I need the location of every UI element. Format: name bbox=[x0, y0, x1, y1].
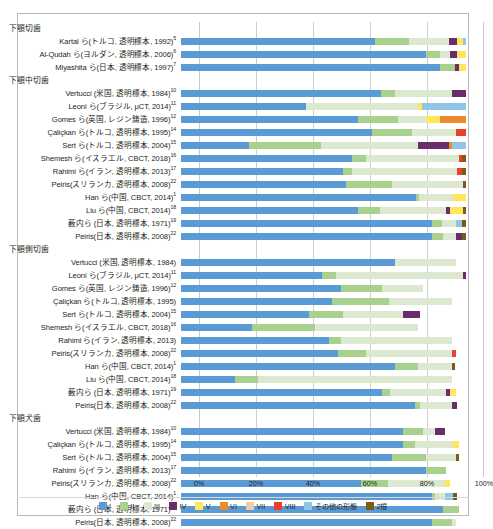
legend-swatch-icon bbox=[99, 502, 107, 510]
reference-superscript: 12 bbox=[170, 113, 176, 119]
section-header-label: 下顎切歯 bbox=[0, 24, 181, 33]
chart-row: Leoni ら(ブラジル, μCT, 2014)11 bbox=[0, 100, 486, 113]
bar-segment-I bbox=[181, 103, 306, 110]
bar-segment-II bbox=[358, 116, 398, 123]
study-label-text: Çaliçkan ら(トルコ, 透明標本, 1995) bbox=[48, 440, 171, 449]
stacked-bar bbox=[181, 38, 466, 45]
bar-segment-III bbox=[452, 519, 456, 526]
study-label: Gomes ら(英国, レジン鋳造, 1996)12 bbox=[0, 115, 181, 124]
legend-item-III[interactable]: III bbox=[144, 502, 161, 511]
section-header-row: 下顎切歯 bbox=[0, 22, 486, 35]
legend-item-V[interactable]: V bbox=[195, 502, 210, 511]
bar-segment-I bbox=[181, 90, 381, 97]
bar-segment-2根 bbox=[462, 220, 466, 227]
legend-item-II[interactable]: II bbox=[120, 502, 135, 511]
bar-segment-II bbox=[346, 181, 392, 188]
study-label: Vertucci (米国, 透明標本, 1984)10 bbox=[0, 89, 181, 98]
bar-segment-III bbox=[440, 51, 450, 58]
bar-segment-I bbox=[181, 181, 346, 188]
stacked-bar bbox=[181, 207, 466, 214]
reference-superscript: 15 bbox=[170, 308, 176, 314]
study-label: 薮内ら (日本, 透明標本, 1971)19 bbox=[0, 388, 181, 397]
study-label: Leoni ら(ブラジル, μCT, 2014)11 bbox=[0, 102, 181, 111]
study-label: Peiris(日本, 透明標本, 2008)22 bbox=[0, 401, 181, 410]
bar-segment-III bbox=[366, 155, 459, 162]
reference-superscript: 22 bbox=[170, 178, 176, 184]
stacked-bar bbox=[181, 428, 466, 435]
bar-area bbox=[181, 113, 466, 126]
reference-superscript: 16 bbox=[170, 152, 176, 158]
study-label-text: Sert ら(トルコ, 透明標本, 2004) bbox=[62, 453, 170, 462]
study-label-text: Peiris(スリランカ, 透明標本, 2008) bbox=[52, 349, 171, 358]
legend-item-2根[interactable]: 2根 bbox=[366, 501, 388, 511]
bar-segment-II bbox=[235, 376, 258, 383]
stacked-bar bbox=[181, 51, 466, 58]
study-label-text: Peiris(日本, 透明標本, 2008) bbox=[75, 401, 170, 410]
bar-segment-I bbox=[181, 337, 329, 344]
chart-row: Gomes ら(英国, レジン鋳造, 1996)12 bbox=[0, 113, 486, 126]
bar-segment-II bbox=[403, 441, 414, 448]
study-label-text: Rahimi ら(イラン, 透明標本, 2013) bbox=[58, 336, 176, 345]
bar-segment-II bbox=[329, 337, 340, 344]
bar-segment-I bbox=[181, 441, 403, 448]
x-axis-tick: 60% bbox=[363, 479, 377, 488]
legend-item-I[interactable]: I bbox=[99, 502, 112, 511]
x-axis-tick: 100% bbox=[475, 479, 493, 488]
study-label: Han ら(中国, CBCT, 2014)1 bbox=[0, 193, 181, 202]
study-label: Sert ら(トルコ, 透明標本, 2004)15 bbox=[0, 453, 181, 462]
reference-superscript: 14 bbox=[170, 126, 176, 132]
legend-item-VIII[interactable]: VIII bbox=[274, 502, 295, 511]
bar-segment-2根 bbox=[463, 181, 466, 188]
stacked-bar bbox=[181, 376, 466, 383]
bar-segment-II bbox=[372, 129, 412, 136]
section-header-spacer bbox=[181, 22, 466, 35]
bar-segment-III bbox=[395, 259, 456, 266]
chart-row: Liu ら(中国, CBCT, 2014)18 bbox=[0, 373, 486, 386]
bar-segment-II bbox=[249, 142, 320, 149]
bar-segment-IV bbox=[418, 142, 449, 149]
stacked-bar bbox=[181, 272, 466, 279]
stacked-bar bbox=[181, 259, 466, 266]
bar-segment-II bbox=[252, 324, 315, 331]
legend-label: IV bbox=[180, 502, 187, 511]
reference-superscript: 10 bbox=[170, 87, 176, 93]
bar-segment-I bbox=[181, 272, 322, 279]
bar-segment-V bbox=[450, 207, 463, 214]
reference-superscript: 14 bbox=[170, 438, 176, 444]
bar-segment-II bbox=[432, 220, 442, 227]
stacked-bar bbox=[181, 103, 466, 110]
legend-item-VI[interactable]: VI bbox=[220, 502, 237, 511]
x-axis-tick: 80% bbox=[420, 479, 434, 488]
bar-segment-I bbox=[181, 376, 235, 383]
bar-area bbox=[181, 61, 466, 74]
legend-item-その他の形態[interactable]: その他の形態 bbox=[304, 501, 357, 511]
bar-segment-III bbox=[392, 181, 463, 188]
bar-segment-VIII bbox=[452, 350, 456, 357]
stacked-bar bbox=[181, 311, 466, 318]
bar-segment-III bbox=[341, 337, 452, 344]
study-label-text: Vertucci (米国, 透明標本, 1984) bbox=[71, 258, 176, 267]
stacked-bar bbox=[181, 285, 466, 292]
legend-item-VII[interactable]: VII bbox=[246, 502, 265, 511]
study-label: Peiris(スリランカ, 透明標本, 2008)22 bbox=[0, 349, 181, 358]
stacked-bar bbox=[181, 454, 466, 461]
study-label-text: Gomes ら(英国, レジン鋳造, 1996) bbox=[52, 115, 171, 124]
study-label-text: Gomes ら(英国, レジン鋳造, 1996) bbox=[52, 284, 171, 293]
stacked-bar bbox=[181, 181, 466, 188]
legend-item-IV[interactable]: IV bbox=[169, 502, 186, 511]
bar-segment-III bbox=[389, 298, 452, 305]
study-label-text: 薮内ら (日本, 透明標本, 1971) bbox=[68, 219, 171, 228]
bar-segment-II bbox=[432, 233, 443, 240]
chart-row: Peiris(スリランカ, 透明標本, 2008)22 bbox=[0, 347, 486, 360]
study-label-text: Peiris(スリランカ, 透明標本, 2008) bbox=[52, 180, 171, 189]
bar-segment-2根 bbox=[462, 233, 466, 240]
study-label: Çaliçkan ら(トルコ, 透明標本, 1995) bbox=[0, 297, 181, 306]
stacked-bar bbox=[181, 168, 466, 175]
chart-row: Peiris(日本, 透明標本, 2008)22 bbox=[0, 230, 486, 243]
chart-row: Peiris(日本, 透明標本, 2008)22 bbox=[0, 516, 486, 529]
legend-label: VI bbox=[230, 502, 237, 511]
chart-row: Miyashita ら(日本, 透明標本, 1997)7 bbox=[0, 61, 486, 74]
reference-superscript: 18 bbox=[170, 373, 176, 379]
stacked-bar bbox=[181, 116, 466, 123]
bar-segment-2根 bbox=[456, 454, 459, 461]
